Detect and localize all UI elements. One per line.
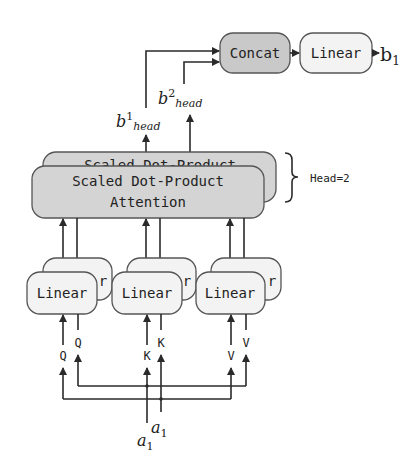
k-front-label: K xyxy=(143,349,151,363)
q-front-label: Q xyxy=(59,349,66,363)
q-linear-back-label: r xyxy=(99,273,107,289)
head1-output-label: b1head xyxy=(116,110,160,133)
attention-diagram: Concat Linear b1 b1head b2head Scaled Do… xyxy=(0,0,415,471)
v-front-label: V xyxy=(227,349,234,363)
head-count-label: Head=2 xyxy=(310,172,350,185)
k-linear-back-label: r xyxy=(183,273,191,289)
attention-front-label-line1: Scaled Dot-Product xyxy=(72,173,224,189)
v-linear-back-label: r xyxy=(268,273,276,289)
q-back-label: Q xyxy=(74,336,81,350)
head2-output-label: b2head xyxy=(158,87,202,110)
concat-label: Concat xyxy=(230,45,281,61)
k-linear-label: Linear xyxy=(122,285,173,301)
k-back-label: K xyxy=(157,336,165,350)
input-label-back: a1 xyxy=(151,418,168,440)
head2-to-concat-line xyxy=(184,62,219,84)
output-label: b1 xyxy=(380,43,400,68)
front-bus-junction xyxy=(159,397,163,401)
attention-front-label-line2: Attention xyxy=(110,194,186,210)
head-brace-icon xyxy=(285,153,298,202)
v-back-label: V xyxy=(242,336,249,350)
v-linear-label: Linear xyxy=(205,285,256,301)
output-linear-label: Linear xyxy=(311,45,362,61)
q-linear-label: Linear xyxy=(37,285,88,301)
